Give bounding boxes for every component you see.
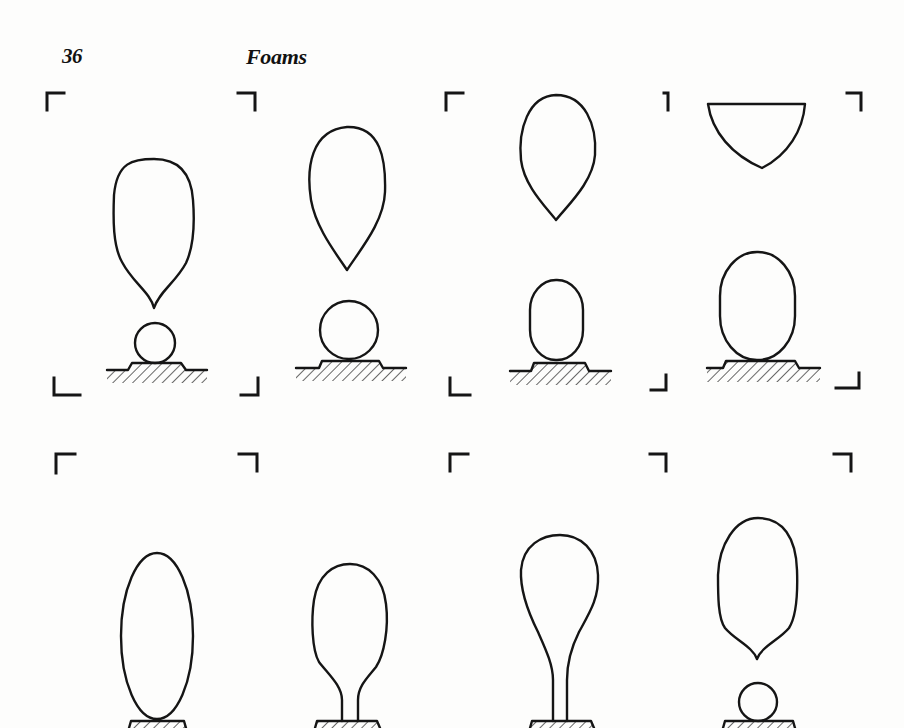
bubble-detachment-figure: [0, 0, 904, 728]
crop-mark-top-left-icon: [56, 454, 75, 473]
pedestal-icon: [315, 721, 380, 728]
departing-bubble-cap-icon: [708, 104, 805, 168]
attached-bubble-icon: [121, 553, 193, 719]
frame-r1f1: [107, 159, 207, 383]
row1-crop-marks: [47, 93, 861, 395]
pedestal-icon: [723, 721, 795, 728]
frame-r1f4: [707, 104, 820, 382]
frame-r2f2: [312, 564, 386, 728]
frame-r2f1: [121, 553, 193, 728]
frame-r1f3: [510, 95, 611, 385]
growing-bubble-icon: [720, 252, 795, 360]
crop-mark-bottom-right-icon: [241, 378, 258, 395]
frame-r2f3: [521, 535, 598, 728]
frame-r2f4: [718, 518, 797, 728]
pedestal-icon: [296, 361, 406, 381]
residual-bubble-icon: [135, 323, 175, 363]
detaching-bubble-icon: [718, 518, 797, 659]
crop-mark-top-right-icon: [239, 454, 257, 471]
book-page: 36 Foams: [0, 0, 904, 728]
necking-bubble-icon: [521, 535, 598, 721]
pedestal-icon: [129, 721, 186, 728]
detaching-bubble-icon: [114, 159, 194, 308]
crop-mark-top-left-icon: [47, 93, 64, 110]
row2-crop-marks: [56, 454, 851, 473]
crop-mark-top-right-icon: [650, 454, 666, 471]
detaching-bubble-icon: [309, 127, 385, 270]
crop-mark-top-right-icon: [834, 454, 851, 471]
pedestal-icon: [107, 363, 207, 383]
crop-mark-bottom-left-icon: [54, 378, 80, 395]
crop-mark-top-right-icon: [664, 93, 668, 110]
pedestal-icon: [530, 721, 594, 728]
crop-mark-top-left-icon: [450, 454, 468, 471]
detaching-bubble-icon: [520, 95, 595, 220]
residual-bubble-icon: [739, 683, 777, 721]
pedestal-icon: [510, 363, 611, 385]
necking-bubble-icon: [312, 564, 386, 721]
frame-r1f2: [296, 127, 406, 381]
residual-bubble-icon: [530, 280, 583, 360]
crop-mark-top-right-icon: [847, 93, 861, 110]
residual-bubble-icon: [320, 301, 378, 359]
pedestal-icon: [707, 361, 820, 382]
crop-mark-bottom-right-icon: [836, 373, 859, 388]
crop-mark-top-right-icon: [238, 93, 255, 110]
crop-mark-top-left-icon: [446, 93, 463, 110]
crop-mark-bottom-right-icon: [651, 375, 666, 390]
crop-mark-bottom-left-icon: [450, 378, 470, 395]
